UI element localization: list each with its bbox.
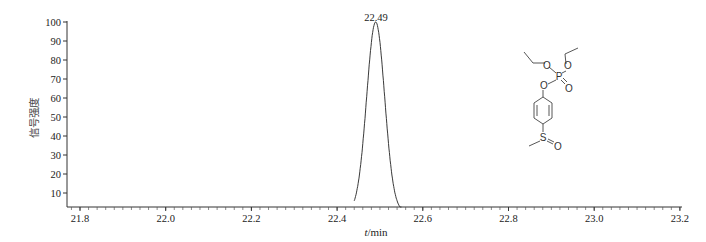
x-tick-label: 22.6 (414, 213, 432, 224)
peak-retention-time-label: 22.49 (364, 12, 388, 23)
y-axis-ticks: 102030405060708090100 (45, 17, 67, 199)
atom-s-sulfur: S (540, 132, 547, 143)
atom-o-sulfinyl: O (554, 141, 562, 152)
y-tick-label: 100 (45, 17, 61, 28)
x-tick-label: 23.2 (671, 213, 689, 224)
y-tick-label: 10 (51, 188, 62, 199)
atom-o-aryl: O (540, 80, 548, 91)
y-tick-label: 30 (51, 150, 62, 161)
x-tick-label: 23.0 (585, 213, 603, 224)
x-tick-label: 22.2 (242, 213, 260, 224)
x-axis-title-unit: /min (367, 226, 388, 238)
atom-o-phosphoryl: O (565, 83, 573, 94)
x-tick-label: 22.8 (499, 213, 517, 224)
y-axis: 102030405060708090100 (45, 17, 67, 208)
y-tick-label: 90 (51, 36, 62, 47)
x-tick-label: 21.8 (71, 213, 89, 224)
x-axis: 21.822.022.222.422.622.823.023.2 (67, 207, 689, 224)
y-tick-label: 40 (51, 131, 62, 142)
x-axis-title: t/min (364, 226, 388, 238)
x-tick-label: 22.4 (328, 213, 347, 224)
y-tick-label: 60 (51, 93, 62, 104)
y-axis-title: 信号强度 (28, 97, 40, 138)
chemical-structure-atoms: O O P O O S O (540, 60, 573, 152)
atom-o-ester-left: O (543, 60, 551, 71)
chromatogram-peak-line (354, 22, 401, 207)
x-tick-label: 22.0 (157, 213, 175, 224)
y-tick-label: 80 (51, 55, 62, 66)
y-tick-label: 50 (51, 112, 62, 123)
atom-o-ester-right: O (564, 60, 572, 71)
atom-p-phosphorus: P (556, 71, 563, 82)
y-tick-label: 20 (51, 169, 62, 180)
chromatogram-chart: 102030405060708090100 21.822.022.222.422… (0, 0, 706, 242)
y-tick-label: 70 (51, 74, 62, 85)
